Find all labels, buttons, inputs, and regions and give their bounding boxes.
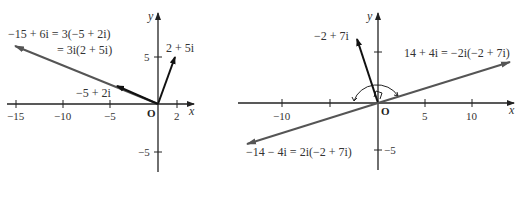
vector-2-plus-5i	[158, 57, 175, 104]
left-diagram: −15 −10 −5 2 5 −5 O x y 2 + 5i −5 + 2i −…	[7, 9, 195, 172]
right-x-tick-neg10: −10	[273, 110, 291, 122]
left-x-tick-neg10: −10	[54, 110, 72, 122]
vector-14-plus-4i	[378, 62, 510, 103]
left-x-tick-neg5: −5	[104, 110, 116, 122]
complex-plane-figure: −15 −10 −5 2 5 −5 O x y 2 + 5i −5 + 2i −…	[0, 0, 523, 198]
right-y-tick-neg5: −5	[384, 144, 396, 156]
label-14-plus-4i: 14 + 4i = −2i(−2 + 7i)	[404, 46, 510, 60]
label-neg5-plus-2i: −5 + 2i	[76, 86, 112, 100]
right-x-tick-10: 10	[466, 110, 478, 122]
left-y-tick-5: 5	[144, 51, 150, 63]
label-neg15-plus-6i-line1: −15 + 6i = 3(−5 + 2i)	[8, 27, 111, 41]
vector-neg14-minus-4i	[247, 103, 378, 144]
left-x-axis-label: x	[188, 104, 195, 118]
left-y-tick-neg5: −5	[138, 146, 150, 158]
vector-neg5-plus-2i	[117, 86, 158, 104]
left-y-axis-label: y	[147, 9, 154, 23]
vector-neg2-plus-7i	[357, 39, 378, 103]
label-2-plus-5i: 2 + 5i	[166, 41, 195, 55]
left-origin-label: O	[147, 107, 156, 119]
label-neg2-plus-7i: −2 + 7i	[314, 29, 350, 43]
left-x-tick-neg15: −15	[7, 110, 25, 122]
left-x-tick-2: 2	[174, 110, 180, 122]
right-y-axis-label: y	[366, 9, 373, 23]
right-origin-label: O	[381, 105, 390, 117]
right-x-axis-label: x	[508, 103, 515, 117]
label-neg14-minus-4i: −14 − 4i = 2i(−2 + 7i)	[246, 145, 352, 159]
label-neg15-plus-6i-line2: = 3i(2 + 5i)	[57, 43, 112, 57]
right-diagram: −10 5 10 −5 O x y −2 + 7i 14 + 4i = −2i(…	[238, 9, 515, 170]
right-x-tick-5: 5	[422, 110, 428, 122]
